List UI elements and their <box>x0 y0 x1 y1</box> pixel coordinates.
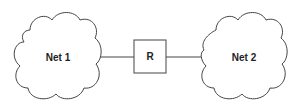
router-label: R <box>146 51 154 62</box>
cloud-net2: Net 2 <box>201 13 287 99</box>
net2-label: Net 2 <box>232 52 257 63</box>
router-box: R <box>134 40 166 73</box>
cloud-net1: Net 1 <box>14 13 101 99</box>
network-diagram: Net 1 R Net 2 <box>0 0 301 110</box>
net1-label: Net 1 <box>46 52 71 63</box>
